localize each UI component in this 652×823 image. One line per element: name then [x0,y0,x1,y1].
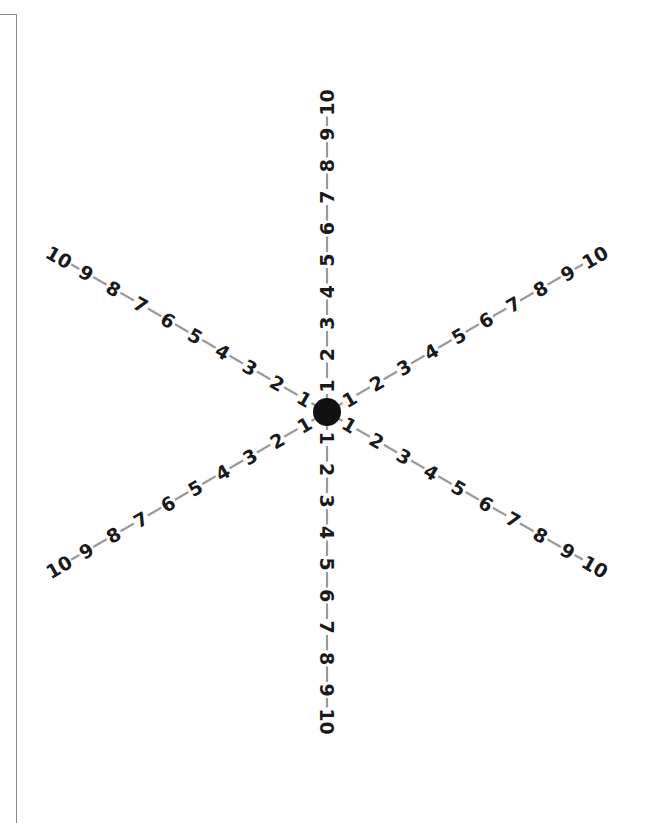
arm-label: 10 [42,551,76,583]
connector-dash [493,309,506,317]
arm-label: 6 [316,589,338,602]
arm-label: 10 [316,89,338,115]
connector-dash [575,555,583,560]
arm-label: 2 [266,428,288,454]
connector-dash [120,524,133,532]
arm-label: 9 [316,127,338,140]
arm-label: 8 [316,159,338,172]
arm-label: 8 [529,522,551,548]
connector-dash [71,555,79,560]
connector-dash [257,372,270,380]
arm-label: 10 [316,708,338,734]
connector-dash [202,476,215,484]
arm-label: 2 [366,370,388,396]
connector-dash [384,372,397,380]
arm-label: 3 [393,355,415,381]
arm-label: 7 [502,507,524,533]
arm-label: 3 [316,316,338,329]
arm-lower-right: 12345678910 [337,412,612,583]
connector-dash [175,324,188,332]
arm-label: 8 [102,276,124,302]
arm-label: 4 [211,459,233,485]
connector-dash [93,277,106,285]
arm-label: 5 [316,557,338,570]
arm-label: 3 [393,444,415,470]
arm-label: 5 [184,475,206,501]
connector-dash [230,356,243,364]
arm-label: 7 [130,507,152,533]
arm-label: 1 [338,412,360,438]
connector-dash [547,277,560,285]
connector-dash [230,461,243,469]
arm-label: 8 [316,652,338,665]
arm-label: 6 [475,307,497,333]
arm-label: 9 [316,683,338,696]
arm-label: 7 [316,190,338,203]
connector-dash [202,340,215,348]
connector-dash [384,445,397,453]
arm-upper-right: 12345678910 [337,241,612,412]
connector-dash [411,461,424,469]
arm-label: 3 [239,355,261,381]
connector-dash [575,264,583,269]
connector-dash [284,429,297,437]
arm-down: 12345678910 [316,424,338,735]
arm-label: 6 [316,222,338,235]
arm-upper-left: 12345678910 [42,241,317,412]
connector-dash [438,476,451,484]
arm-label: 5 [447,323,469,349]
arm-label: 4 [420,339,442,365]
arm-label: 6 [475,491,497,517]
arm-label: 10 [578,241,612,273]
arm-label: 7 [316,620,338,633]
arm-label: 5 [447,475,469,501]
connector-dash [284,387,297,395]
arm-label: 6 [157,491,179,517]
arm-label: 5 [316,253,338,266]
arm-label: 10 [42,241,76,273]
arm-label: 1 [316,431,338,444]
arm-label: 9 [557,538,579,564]
center-dot [313,398,341,426]
arm-label: 4 [211,339,233,365]
arm-label: 2 [366,428,388,454]
arm-label: 1 [293,412,315,438]
arm-label: 3 [316,494,338,507]
connector-dash [466,492,479,500]
connector-dash [438,340,451,348]
connector-dash [466,324,479,332]
arm-label: 4 [316,526,338,539]
connector-dash [520,524,533,532]
arm-label: 1 [338,386,360,412]
connector-dash [547,539,560,547]
arm-label: 2 [316,348,338,361]
connector-dash [411,356,424,364]
arm-label: 6 [157,307,179,333]
connector-dash [356,387,369,395]
arm-label: 4 [420,459,442,485]
connector-dash [356,429,369,437]
connector-dash [520,293,533,301]
arm-label: 4 [316,285,338,298]
arm-label: 8 [102,522,124,548]
arm-label: 2 [316,463,338,476]
arm-label: 5 [184,323,206,349]
connector-dash [120,293,133,301]
connector-dash [148,508,161,516]
arm-label: 10 [578,551,612,583]
arm-label: 1 [316,379,338,392]
arm-label: 8 [529,276,551,302]
connector-dash [493,508,506,516]
connector-dash [71,264,79,269]
arm-label: 2 [266,370,288,396]
radial-number-diagram: 1234567891012345678910123456789101234567… [0,0,652,823]
arm-label: 9 [557,260,579,286]
connector-dash [175,492,188,500]
arm-label: 1 [293,386,315,412]
arm-label: 3 [239,444,261,470]
arm-label: 7 [502,292,524,318]
arm-label: 9 [75,260,97,286]
connector-dash [148,309,161,317]
arm-label: 9 [75,538,97,564]
connector-dash [93,539,106,547]
